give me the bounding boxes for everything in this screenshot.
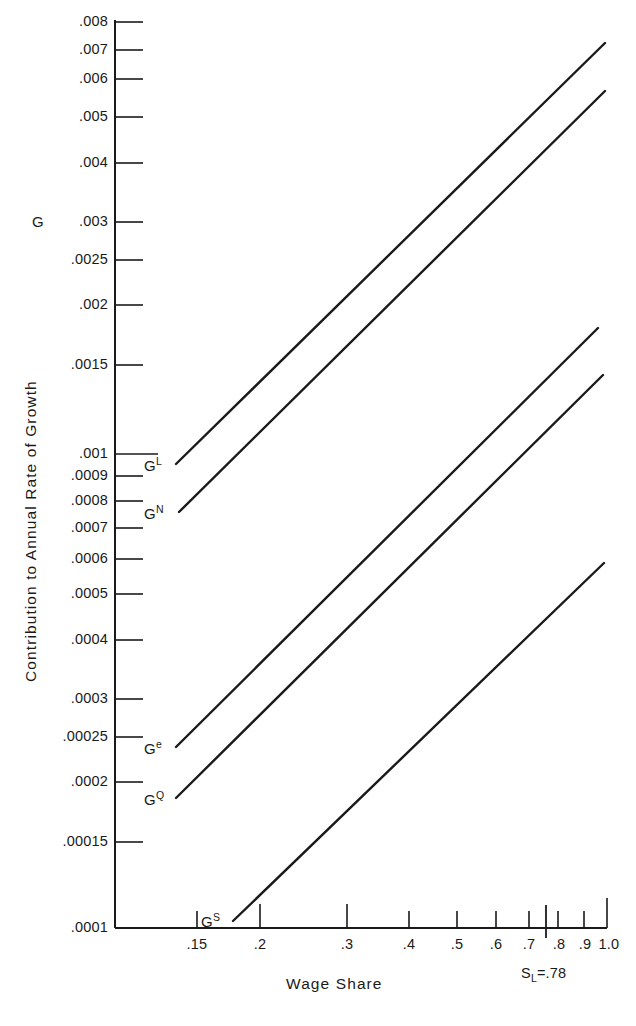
series-label-g-l: GL (144, 455, 162, 474)
y-tick-label-006: .006 (28, 70, 108, 86)
series-label-g-l-base: G (144, 457, 156, 474)
series-label-g-n-sup: N (156, 503, 164, 515)
y-tick-label-0001: .0001 (20, 919, 108, 935)
y-tick-label-008: .008 (28, 13, 108, 29)
series-label-g-q: GQ (144, 789, 164, 808)
chart-figure: .008 .007 .006 .005 .004 .003 .0025 .002… (0, 0, 636, 1026)
x-axis-title: Wage Share (286, 975, 383, 993)
y-tick-label-0015: .0015 (28, 356, 108, 372)
y-tick-label-001: .001 (28, 445, 108, 461)
y-tick-label-00015: .00015 (12, 833, 108, 849)
y-tick-label-0002: .0002 (20, 773, 108, 789)
y-tick-label-007: .007 (28, 41, 108, 57)
series-line-g-l (176, 43, 605, 464)
y-axis-symbol: G (32, 213, 44, 230)
series-label-g-e-base: G (144, 740, 156, 757)
y-tick-marks (115, 22, 158, 842)
x-tick-label-15: .15 (177, 936, 217, 952)
series-line-g-s (233, 563, 604, 921)
sl-base: S (521, 965, 531, 981)
series-label-g-s-sup: S (213, 911, 220, 923)
series-label-g-s-base: G (201, 913, 213, 930)
sl-value: =.78 (537, 965, 566, 981)
series-label-g-l-sup: L (156, 455, 162, 467)
series-label-g-q-base: G (144, 791, 156, 808)
series-label-g-e: Ge (144, 738, 162, 757)
y-tick-label-005: .005 (28, 108, 108, 124)
y-tick-label-0025: .0025 (28, 251, 108, 267)
x-tick-label-2: .2 (242, 936, 278, 952)
series-line-g-n (179, 91, 605, 512)
y-tick-label-00025: .00025 (12, 728, 108, 744)
y-tick-label-0003: .0003 (20, 690, 108, 706)
y-tick-label-002: .002 (28, 296, 108, 312)
series-label-g-n: GN (144, 503, 164, 522)
x-tick-label-5: .5 (439, 936, 475, 952)
series-label-g-q-sup: Q (156, 789, 164, 801)
series-label-g-s: GS (201, 911, 220, 930)
series-label-g-e-sup: e (156, 738, 162, 750)
x-tick-label-6: .6 (478, 936, 514, 952)
y-axis-title: Contribution to Annual Rate of Growth (22, 380, 40, 682)
x-tick-label-10: 1.0 (589, 936, 629, 952)
sl-marker-label: SL=.78 (521, 965, 566, 984)
x-tick-label-4: .4 (391, 936, 427, 952)
series-label-g-n-base: G (144, 505, 156, 522)
series-line-g-e (176, 328, 598, 747)
y-tick-label-004: .004 (28, 154, 108, 170)
x-tick-label-3: .3 (329, 936, 365, 952)
series-line-g-q (176, 375, 603, 798)
